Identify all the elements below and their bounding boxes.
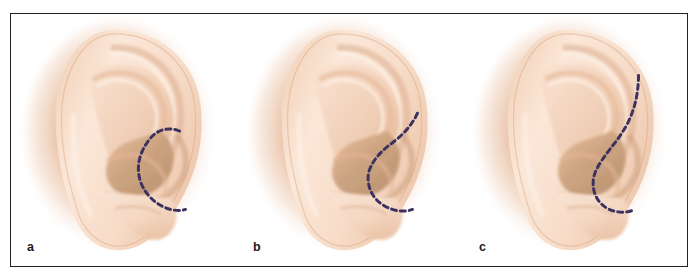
panel-label-c: c <box>479 241 486 254</box>
ear-illustration-b <box>237 14 463 266</box>
ear-illustration-c <box>463 14 689 266</box>
panel-label-a: a <box>27 241 34 254</box>
figure-panel-a: a <box>11 14 237 266</box>
figure-panel-c: c <box>463 14 689 266</box>
ear-illustration-a <box>11 14 237 266</box>
figure-panel-b: b <box>237 14 463 266</box>
figure-frame: a <box>10 13 688 267</box>
figure-screenshot: a <box>0 0 699 277</box>
panel-label-b: b <box>253 241 261 254</box>
